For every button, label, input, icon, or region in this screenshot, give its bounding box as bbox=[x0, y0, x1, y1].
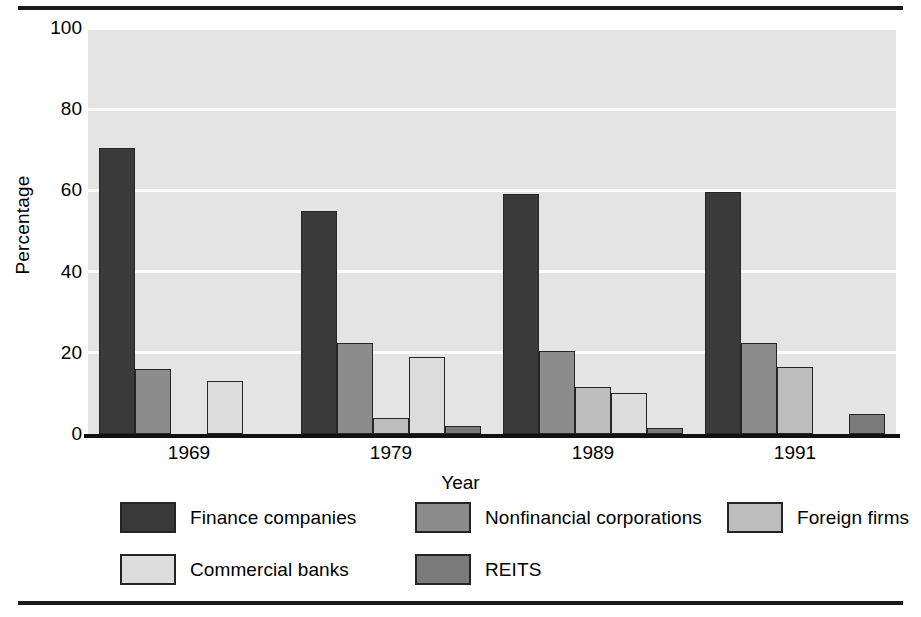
bar bbox=[207, 381, 243, 434]
bar bbox=[611, 393, 647, 434]
legend-item[interactable]: Commercial banks bbox=[120, 554, 349, 585]
chart-legend: Finance companiesNonfinancial corporatio… bbox=[0, 496, 921, 596]
legend-label: Finance companies bbox=[190, 507, 356, 529]
legend-swatch bbox=[120, 554, 176, 585]
bar bbox=[373, 418, 409, 434]
x-axis-tick-labels: 1969197919891991 bbox=[88, 442, 896, 468]
figure-container: Percentage 020406080100 1969197919891991… bbox=[0, 0, 921, 617]
legend-label: REITS bbox=[485, 559, 541, 581]
y-tick-label: 100 bbox=[34, 18, 82, 37]
bar bbox=[539, 351, 575, 434]
x-axis-line bbox=[84, 434, 900, 438]
bar bbox=[503, 194, 539, 434]
legend-swatch bbox=[415, 554, 471, 585]
legend-row: Finance companiesNonfinancial corporatio… bbox=[0, 496, 921, 542]
x-tick-label: 1989 bbox=[572, 442, 614, 464]
legend-swatch bbox=[727, 502, 783, 533]
bar bbox=[337, 343, 373, 434]
legend-item[interactable]: Foreign firms bbox=[727, 502, 909, 533]
bar bbox=[99, 148, 135, 434]
y-tick-label: 40 bbox=[34, 262, 82, 281]
x-axis-title: Year bbox=[0, 472, 921, 494]
legend-swatch bbox=[415, 502, 471, 533]
legend-swatch bbox=[120, 502, 176, 533]
y-tick-label: 0 bbox=[34, 424, 82, 443]
bar bbox=[575, 387, 611, 434]
bar bbox=[445, 426, 481, 434]
x-tick-label: 1991 bbox=[774, 442, 816, 464]
legend-label: Commercial banks bbox=[190, 559, 349, 581]
figure-top-rule bbox=[18, 6, 903, 10]
legend-row: Commercial banksREITS bbox=[0, 548, 921, 594]
legend-item[interactable]: REITS bbox=[415, 554, 541, 585]
bar bbox=[777, 367, 813, 434]
figure-bottom-rule bbox=[18, 601, 903, 605]
bar bbox=[409, 357, 445, 434]
bar-series-group bbox=[88, 28, 896, 434]
bar bbox=[135, 369, 171, 434]
legend-label: Nonfinancial corporations bbox=[485, 507, 702, 529]
bar bbox=[301, 211, 337, 434]
bar bbox=[849, 414, 885, 434]
legend-label: Foreign firms bbox=[797, 507, 909, 529]
y-tick-label: 80 bbox=[34, 99, 82, 118]
legend-item[interactable]: Nonfinancial corporations bbox=[415, 502, 702, 533]
x-tick-label: 1979 bbox=[370, 442, 412, 464]
bar bbox=[741, 343, 777, 434]
bar-chart: Percentage 020406080100 1969197919891991… bbox=[0, 14, 921, 484]
y-tick-label: 60 bbox=[34, 180, 82, 199]
y-tick-label: 20 bbox=[34, 343, 82, 362]
y-axis-tick-labels: 020406080100 bbox=[26, 28, 82, 434]
bar bbox=[705, 192, 741, 434]
x-tick-label: 1969 bbox=[168, 442, 210, 464]
legend-item[interactable]: Finance companies bbox=[120, 502, 356, 533]
plot-area bbox=[88, 28, 896, 434]
